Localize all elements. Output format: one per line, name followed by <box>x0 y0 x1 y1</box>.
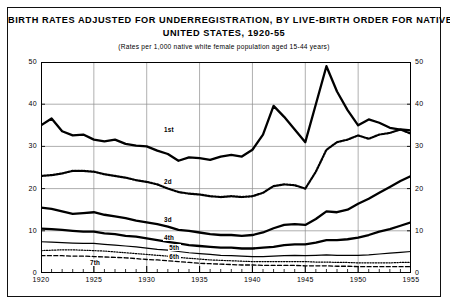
series-label-4th: 4th <box>163 234 176 241</box>
y-axis-tick-right-30: 30 <box>415 142 423 149</box>
plot-area: 0010102020303040405050192019251930193519… <box>41 62 411 273</box>
chart-title-line-1: BIRTH RATES ADJUSTED FOR UNDERREGISTRATI… <box>8 14 440 27</box>
chart-frame: BIRTH RATES ADJUSTED FOR UNDERREGISTRATI… <box>7 7 441 297</box>
x-axis-tick-1920: 1920 <box>33 276 50 283</box>
series-label-3d: 3d <box>163 216 174 223</box>
series-label-5th: 5th <box>168 244 181 251</box>
y-axis-tick-right-10: 10 <box>415 227 423 234</box>
y-axis-tick-left-40: 40 <box>29 100 37 107</box>
x-axis-tick-1935: 1935 <box>191 276 208 283</box>
y-axis-tick-left-50: 50 <box>29 58 37 65</box>
y-axis-tick-left-0: 0 <box>33 269 37 276</box>
title-block: BIRTH RATES ADJUSTED FOR UNDERREGISTRATI… <box>8 14 440 50</box>
y-axis-tick-right-0: 0 <box>415 269 419 276</box>
y-axis-tick-right-20: 20 <box>415 185 423 192</box>
y-axis-tick-left-10: 10 <box>29 227 37 234</box>
series-label-6th: 6th <box>168 253 181 260</box>
x-axis-tick-1955: 1955 <box>403 276 420 283</box>
x-axis-tick-1930: 1930 <box>138 276 155 283</box>
series-label-1st: 1st <box>163 126 176 133</box>
y-axis-tick-left-20: 20 <box>29 185 37 192</box>
x-axis-tick-1940: 1940 <box>244 276 261 283</box>
series-label-7th: 7th <box>89 259 102 266</box>
series-label-2d: 2d <box>163 178 174 185</box>
y-axis-tick-left-30: 30 <box>29 142 37 149</box>
plot-border <box>41 62 411 273</box>
x-axis-tick-1945: 1945 <box>297 276 314 283</box>
x-axis-tick-1950: 1950 <box>350 276 367 283</box>
y-axis-tick-right-50: 50 <box>415 58 423 65</box>
chart-title-line-2: UNITED STATES, 1920-55 <box>8 27 440 40</box>
y-axis-tick-right-40: 40 <box>415 100 423 107</box>
chart-subtitle: (Rates per 1,000 native white female pop… <box>8 43 440 50</box>
x-axis-tick-1925: 1925 <box>85 276 102 283</box>
